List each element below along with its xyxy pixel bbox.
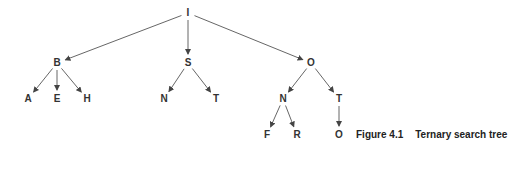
tree-node-n2: N — [279, 94, 286, 104]
edge-o1-t2 — [315, 69, 333, 92]
figure-title: Ternary search tree — [415, 129, 507, 140]
tree-node-n1: N — [160, 94, 167, 104]
figure-caption: Figure 4.1Ternary search tree — [356, 129, 507, 140]
tree-node-b: B — [53, 58, 60, 68]
edge-i-o1 — [194, 16, 302, 60]
tree-node-t2: T — [336, 94, 342, 104]
edge-b-h — [61, 68, 81, 92]
tree-node-e: E — [54, 94, 61, 104]
edge-o1-n2 — [289, 69, 307, 92]
edge-b-a — [34, 68, 53, 92]
figure-number: Figure 4.1 — [356, 129, 403, 140]
tree-node-s: S — [185, 58, 192, 68]
tree-node-f: F — [264, 130, 270, 140]
tree-node-a: A — [24, 94, 31, 104]
tree-node-o2: O — [335, 130, 343, 140]
tree-edges — [0, 0, 525, 171]
edge-n2-f — [271, 105, 281, 126]
tree-node-t1: T — [213, 94, 219, 104]
tree-node-h: H — [83, 94, 90, 104]
ternary-search-tree-figure: IBSOAEHNTNTFRO Figure 4.1Ternary search … — [0, 0, 525, 171]
edge-s-n1 — [169, 69, 184, 92]
tree-node-i: I — [187, 8, 190, 18]
edge-s-t1 — [192, 69, 210, 92]
tree-node-r: R — [293, 130, 300, 140]
edge-i-b — [65, 15, 181, 59]
edge-n2-r — [286, 106, 294, 127]
tree-node-o1: O — [307, 58, 315, 68]
